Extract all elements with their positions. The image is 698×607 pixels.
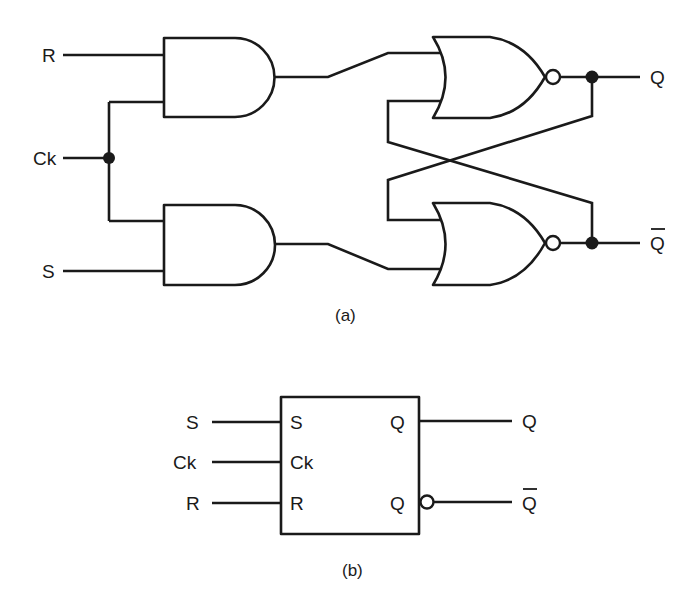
latch-diagram: R Ck S Q Q (a) — [0, 0, 698, 607]
and-gate-bottom — [164, 205, 275, 285]
nor-top-inversion-bubble — [546, 70, 560, 84]
block-b: S Ck R S Ck R Q Q Q Q (b) — [173, 397, 537, 580]
diagram-canvas: R Ck S Q Q (a) — [0, 0, 698, 607]
caption-a: (a) — [335, 306, 356, 325]
block-inner-label-q: Q — [390, 412, 405, 433]
block-qbar-inversion-bubble — [421, 496, 434, 509]
circuit-a: R Ck S Q Q (a) — [33, 37, 665, 325]
nor-gate-top — [433, 37, 545, 118]
and-gate-top — [164, 38, 275, 117]
block-inner-label-qbar: Q — [390, 493, 405, 514]
block-outer-label-ck: Ck — [173, 452, 197, 473]
block-inner-label-r: R — [290, 493, 304, 514]
block-inner-label-ck: Ck — [290, 452, 314, 473]
nor-bottom-inversion-bubble — [546, 236, 560, 250]
wire-and-bottom-to-nor-bottom — [275, 244, 441, 269]
block-outer-label-q: Q — [522, 411, 537, 432]
caption-b: (b) — [342, 561, 363, 580]
output-label-qbar: Q — [650, 233, 665, 254]
wire-and-top-to-nor-top — [274, 53, 441, 77]
block-outer-label-qbar: Q — [522, 493, 537, 514]
nor-gate-bottom — [433, 203, 545, 285]
junction-q-dot — [586, 71, 599, 84]
input-label-s: S — [42, 261, 55, 282]
block-outer-label-s: S — [186, 412, 199, 433]
block-outer-label-r: R — [186, 493, 200, 514]
input-label-ck: Ck — [33, 148, 57, 169]
junction-qbar-dot — [586, 237, 599, 250]
input-label-r: R — [42, 45, 56, 66]
junction-ck-dot — [103, 152, 115, 164]
output-label-q: Q — [650, 67, 665, 88]
block-inner-label-s: S — [290, 412, 303, 433]
